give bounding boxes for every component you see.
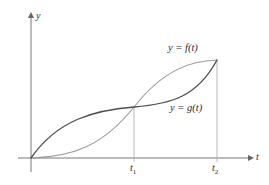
y-axis-label: y [36,11,40,21]
math-graph-figure: y t y = f(t) y = g(t) t1 t2 [0,0,269,185]
tick-label-t1-subscript: 1 [133,168,137,176]
curve-f-label: y = f(t) [168,43,198,54]
t-axis-label: t [256,152,259,162]
curve-g-label: y = g(t) [170,103,202,114]
tick-label-t2: t2 [212,163,218,176]
x-axis-arrowhead [248,155,254,161]
tick-label-t2-subscript: 2 [215,168,219,176]
y-axis-arrowhead [28,12,34,18]
graph-canvas [0,0,269,185]
tick-label-t1: t1 [130,163,136,176]
